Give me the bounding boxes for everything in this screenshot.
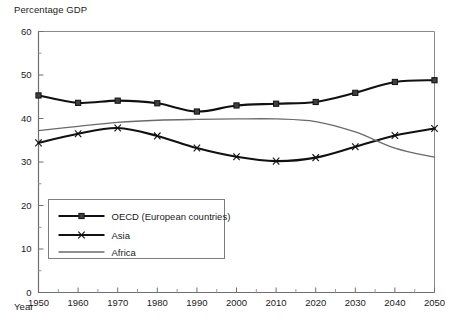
x-tick-label: 2040 [384, 297, 405, 308]
chart-container: Percentage GDP Year 0102030405060 195019… [0, 0, 452, 320]
x-tick-label: 2010 [266, 297, 287, 308]
x-tick-label: 1990 [186, 297, 207, 308]
y-tick-label: 40 [21, 113, 32, 124]
y-tick-label: 60 [21, 26, 32, 37]
y-axis-ticks: 0102030405060 [21, 26, 44, 298]
x-axis-ticks: 1950196019701980199020002010202020302040… [28, 288, 445, 308]
y-tick-label: 50 [21, 69, 32, 80]
x-tick-label: 1960 [68, 297, 89, 308]
y-tick-label: 10 [21, 243, 32, 254]
chart-legend: OECD (European countries)AsiaAfrica [49, 200, 231, 259]
x-tick-label: 1950 [28, 297, 49, 308]
series-oecd-european-countries [36, 78, 437, 115]
line-chart-plot: 0102030405060 19501960197019801990200020… [0, 0, 452, 320]
x-tick-label: 2020 [305, 297, 326, 308]
series-asia [35, 125, 437, 165]
series-africa [39, 119, 435, 157]
x-tick-label: 2000 [226, 297, 247, 308]
legend-label: Asia [112, 230, 131, 241]
x-tick-label: 1970 [107, 297, 128, 308]
y-tick-label: 30 [21, 156, 32, 167]
x-tick-label: 2030 [345, 297, 366, 308]
legend-label: OECD (European countries) [112, 211, 231, 222]
x-tick-label: 1980 [147, 297, 168, 308]
y-tick-label: 20 [21, 200, 32, 211]
legend-label: Africa [112, 247, 137, 258]
x-tick-label: 2050 [424, 297, 445, 308]
series-layer [35, 78, 437, 165]
